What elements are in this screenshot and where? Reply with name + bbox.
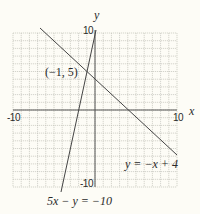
line2-equation-label: 5x − y = −10 xyxy=(47,194,112,209)
y-max-tick: 10 xyxy=(83,25,93,36)
y-min-tick: -10 xyxy=(80,178,93,189)
coordinate-plane xyxy=(0,0,200,214)
y-axis-label: y xyxy=(94,8,99,23)
x-max-tick: 10 xyxy=(173,112,183,123)
line-y-equals-neg-x-plus-4 xyxy=(40,28,177,155)
intersection-label: (−1, 5) xyxy=(45,65,78,80)
x-axis-label: x xyxy=(189,104,194,119)
x-min-tick: -10 xyxy=(7,112,20,123)
line1-equation-label: y = −x + 4 xyxy=(125,157,178,172)
